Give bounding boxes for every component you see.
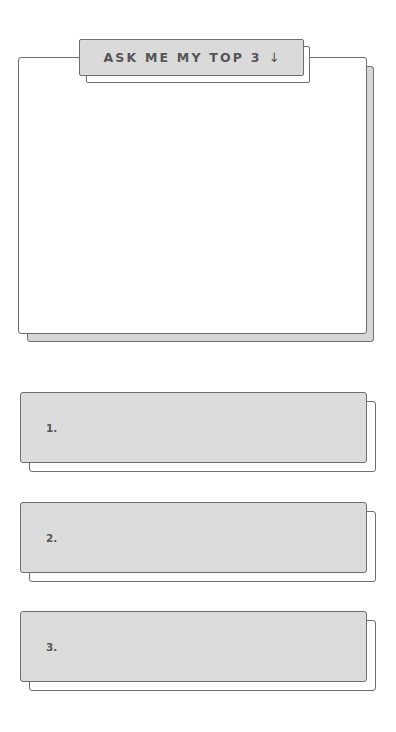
main-card	[18, 57, 367, 334]
list-item-number: 1.	[46, 422, 57, 434]
list-item-number: 2.	[46, 532, 57, 544]
list-item-number: 3.	[46, 641, 57, 653]
list-item[interactable]: 1.	[20, 392, 367, 463]
ask-top-3-button[interactable]: ASK ME MY TOP 3 ↓	[79, 39, 304, 76]
arrow-down-icon: ↓	[269, 50, 280, 65]
tab-label: ASK ME MY TOP 3	[103, 50, 261, 65]
list-item[interactable]: 3.	[20, 611, 367, 682]
list-item[interactable]: 2.	[20, 502, 367, 573]
